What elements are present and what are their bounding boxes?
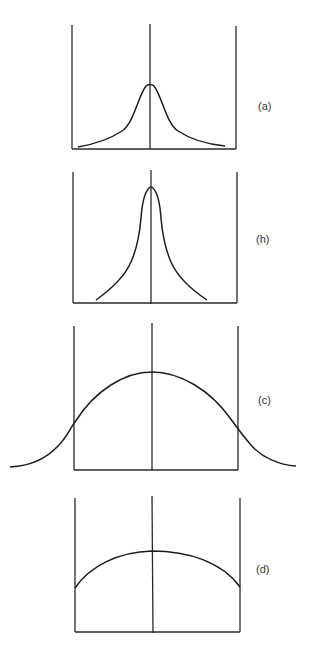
- panel-a: [72, 24, 236, 149]
- panel-c-curve: [10, 372, 296, 467]
- panel-h-label: (h): [256, 233, 269, 245]
- distribution-diagram: [0, 0, 312, 651]
- panel-d-label: (d): [256, 563, 269, 575]
- panel-c-label: (c): [258, 394, 271, 406]
- panel-d-center-line: [152, 496, 153, 633]
- panel-a-label: (a): [258, 100, 271, 112]
- panel-a-curve: [78, 85, 225, 148]
- panel-h: [73, 170, 237, 304]
- panel-d: [75, 496, 240, 633]
- panel-d-curve: [75, 551, 240, 588]
- panel-c: [10, 323, 296, 470]
